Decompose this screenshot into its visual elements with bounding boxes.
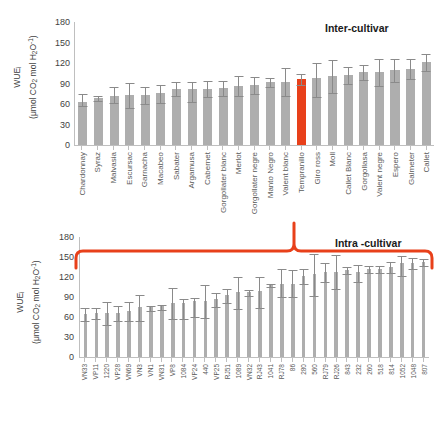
x-axis-label: Callet bbox=[422, 152, 431, 172]
bar bbox=[345, 270, 349, 357]
bar-item bbox=[91, 22, 107, 145]
bar bbox=[247, 292, 251, 357]
x-axis-label: Escursac bbox=[124, 152, 133, 185]
error-bar bbox=[390, 59, 399, 82]
y-tick: 150 bbox=[59, 252, 74, 262]
error-bar bbox=[375, 59, 384, 88]
bar-highlighted bbox=[297, 79, 306, 145]
x-axis-labels-inter: ChardonnaySyrazMalvasiaEscursacGarnachaM… bbox=[74, 152, 434, 218]
x-tick bbox=[340, 146, 356, 150]
error-bar bbox=[365, 266, 374, 274]
x-axis-label: 1041 bbox=[267, 364, 274, 378]
error-bar bbox=[234, 76, 243, 97]
error-bar bbox=[266, 78, 275, 88]
error-bar bbox=[78, 94, 87, 106]
bar-item bbox=[364, 237, 375, 357]
x-tick bbox=[156, 358, 167, 362]
bar-series-intra bbox=[80, 237, 429, 357]
error-bar bbox=[397, 256, 406, 278]
bar-item bbox=[298, 237, 309, 357]
bar-item bbox=[106, 22, 122, 145]
bar-item bbox=[153, 22, 169, 145]
bar bbox=[78, 102, 87, 145]
x-axis-label: Gorgollater blanc bbox=[218, 152, 227, 213]
bar-item bbox=[200, 22, 216, 145]
bar-item bbox=[340, 22, 356, 145]
y-tick: 180 bbox=[55, 17, 70, 27]
bar-item bbox=[156, 237, 167, 357]
bar-item bbox=[244, 237, 255, 357]
error-bar bbox=[312, 63, 321, 97]
x-tick bbox=[374, 358, 385, 362]
error-bar bbox=[212, 293, 221, 308]
plot-area-intra bbox=[79, 237, 429, 358]
x-tick bbox=[287, 358, 298, 362]
bar-item bbox=[75, 22, 91, 145]
error-bar bbox=[125, 302, 134, 323]
bar bbox=[378, 269, 382, 357]
x-tick bbox=[105, 146, 121, 150]
bar-item bbox=[294, 22, 310, 145]
x-axis-label: Callet Blanc bbox=[343, 152, 352, 195]
error-bar bbox=[255, 277, 264, 309]
x-label-cell: Chardonnay bbox=[74, 152, 90, 218]
x-tick bbox=[254, 358, 265, 362]
error-bar bbox=[406, 59, 415, 80]
x-tick bbox=[101, 358, 112, 362]
y-tick: 0 bbox=[69, 352, 74, 362]
bar-item bbox=[145, 237, 156, 357]
error-bar bbox=[386, 262, 395, 274]
x-tick bbox=[265, 358, 276, 362]
x-tick bbox=[112, 358, 123, 362]
x-label-cell: 1041 bbox=[265, 364, 276, 404]
x-axis-label: Espero bbox=[390, 152, 399, 177]
x-axis-label: VN32 bbox=[245, 364, 252, 380]
bar-item bbox=[189, 237, 200, 357]
panel-title-intra: Intra -cultivar bbox=[335, 237, 402, 249]
plot-area-inter bbox=[74, 22, 434, 146]
x-axis-label: VN33 bbox=[81, 364, 88, 380]
bar-item bbox=[122, 22, 138, 145]
x-axis-label: Garnacha bbox=[140, 152, 149, 187]
x-axis-label: RJ78 bbox=[278, 364, 285, 379]
error-bar bbox=[157, 305, 166, 311]
x-label-cell: Espero bbox=[387, 152, 403, 218]
error-bar bbox=[310, 254, 319, 297]
error-bar bbox=[168, 288, 177, 320]
error-bar bbox=[288, 270, 297, 298]
bar-item bbox=[396, 237, 407, 357]
bar-item bbox=[167, 237, 178, 357]
x-tick bbox=[331, 358, 342, 362]
x-label-cell: 814 bbox=[385, 364, 396, 404]
bar-item bbox=[231, 22, 247, 145]
x-axis-label: RJ51 bbox=[223, 364, 230, 379]
error-bar bbox=[245, 290, 254, 297]
bar-item bbox=[265, 237, 276, 357]
y-tick: 30 bbox=[60, 120, 70, 130]
error-bar bbox=[146, 306, 155, 312]
x-axis-label: VN1 bbox=[147, 364, 154, 377]
x-tick bbox=[276, 358, 287, 362]
x-label-cell: Gorgollater blanc bbox=[215, 152, 231, 218]
y-axis-ticks-inter: 180 150 120 90 60 30 0 bbox=[40, 0, 70, 220]
error-bar bbox=[297, 74, 306, 86]
bar-item bbox=[309, 237, 320, 357]
bar-item bbox=[372, 22, 388, 145]
x-label-cell: Callet bbox=[418, 152, 434, 218]
x-tick bbox=[387, 146, 403, 150]
x-tick bbox=[188, 358, 199, 362]
error-bar bbox=[422, 54, 431, 72]
error-bar bbox=[201, 285, 210, 319]
x-label-cell: RJ51 bbox=[221, 364, 232, 404]
x-label-cell: VN69 bbox=[123, 364, 134, 404]
x-axis-ticks-intra bbox=[79, 358, 429, 362]
bar bbox=[422, 262, 426, 357]
x-axis-label: 1052 bbox=[398, 364, 405, 378]
x-tick bbox=[199, 358, 210, 362]
bar bbox=[269, 285, 273, 357]
y-tick: 150 bbox=[55, 38, 70, 48]
x-axis-label: 807 bbox=[420, 364, 427, 375]
x-label-cell: Valent negre bbox=[371, 152, 387, 218]
x-axis-label: RJ79 bbox=[322, 364, 329, 379]
bar-item bbox=[407, 237, 418, 357]
